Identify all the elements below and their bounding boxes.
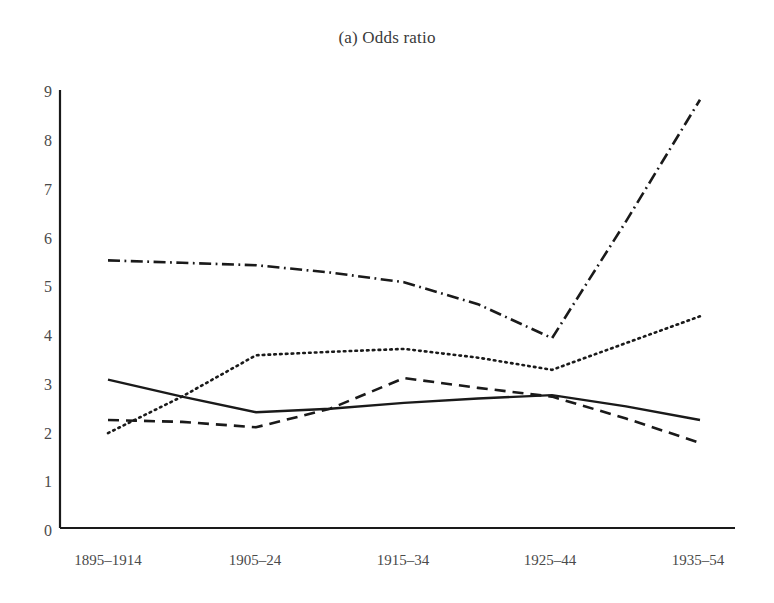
series-group <box>108 100 700 443</box>
figure-odds-ratio: (a) Odds ratio 9 8 7 6 5 4 3 2 1 0 1895–… <box>0 0 774 603</box>
plot-area: 9 8 7 6 5 4 3 2 1 0 1895–1914 1905–24 19… <box>0 0 774 603</box>
axis-group <box>60 90 735 528</box>
series-solid <box>108 380 700 420</box>
series-dash-dot <box>108 100 700 338</box>
series-dotted <box>108 316 700 433</box>
chart-canvas <box>0 0 774 603</box>
